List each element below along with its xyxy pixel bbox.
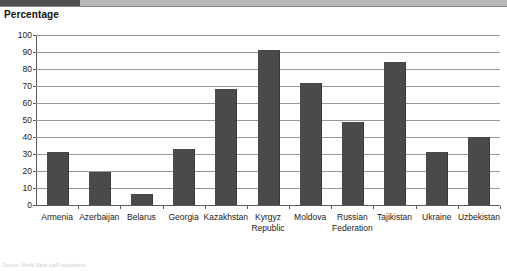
x-tick-mark xyxy=(78,206,79,209)
y-tick-label: 20 xyxy=(2,166,32,176)
page-title: Percentage xyxy=(4,9,59,20)
bar xyxy=(89,172,111,205)
bar xyxy=(426,152,448,205)
y-tick-mark xyxy=(33,35,36,36)
x-tick-mark xyxy=(247,206,248,209)
y-tick-mark xyxy=(33,188,36,189)
x-tick-label: Tajikistan xyxy=(377,212,412,223)
y-tick-mark xyxy=(33,103,36,104)
x-tick-mark xyxy=(458,206,459,209)
y-tick-label: 70 xyxy=(2,81,32,91)
bar xyxy=(131,194,153,205)
bar xyxy=(173,149,195,205)
y-tick-label: 30 xyxy=(2,149,32,159)
y-tick-label: 40 xyxy=(2,132,32,142)
bar xyxy=(468,137,490,205)
bar xyxy=(215,89,237,205)
x-tick-mark xyxy=(500,206,501,209)
y-tick-mark xyxy=(33,120,36,121)
x-tick-mark xyxy=(416,206,417,209)
bar xyxy=(47,152,69,205)
y-tick-label: 90 xyxy=(2,47,32,57)
y-tick-mark xyxy=(33,137,36,138)
x-tick-mark xyxy=(331,206,332,209)
x-tick-label: Kazakhstan xyxy=(204,212,248,223)
x-tick-label: Azerbaijan xyxy=(79,212,119,223)
x-tick-mark xyxy=(120,206,121,209)
x-axis-line xyxy=(36,205,500,206)
x-tick-label: Belarus xyxy=(127,212,156,223)
gridline xyxy=(36,35,500,36)
x-tick-label: Georgia xyxy=(169,212,199,223)
y-tick-mark xyxy=(33,52,36,53)
y-tick-label: 10 xyxy=(2,183,32,193)
y-tick-mark xyxy=(33,86,36,87)
x-tick-label: Uzbekistan xyxy=(458,212,500,223)
y-tick-label: 60 xyxy=(2,98,32,108)
y-tick-label: 80 xyxy=(2,64,32,74)
x-tick-label: Ukraine xyxy=(422,212,451,223)
x-tick-mark xyxy=(373,206,374,209)
y-tick-mark xyxy=(33,69,36,70)
x-tick-mark xyxy=(289,206,290,209)
y-tick-label: 100 xyxy=(2,30,32,40)
y-tick-mark xyxy=(33,171,36,172)
x-tick-label: Kyrgyz Republic xyxy=(251,212,284,234)
x-tick-label: Russian Federation xyxy=(332,212,373,234)
chart-page: Percentage 0102030405060708090100 Armeni… xyxy=(0,0,507,271)
bar xyxy=(300,83,322,205)
x-tick-mark xyxy=(163,206,164,209)
header-rule xyxy=(0,6,507,7)
source-note: Source: World Bank staff calculations. xyxy=(3,262,87,268)
x-tick-mark xyxy=(205,206,206,209)
bar xyxy=(342,122,364,205)
x-tick-label: Armenia xyxy=(41,212,73,223)
plot-area xyxy=(36,35,500,205)
y-tick-label: 0 xyxy=(2,200,32,210)
bar xyxy=(384,62,406,205)
y-tick-label: 50 xyxy=(2,115,32,125)
y-tick-mark xyxy=(33,154,36,155)
y-axis-tick-labels: 0102030405060708090100 xyxy=(0,35,32,205)
y-tick-mark xyxy=(33,205,36,206)
bar xyxy=(258,50,280,205)
x-tick-label: Moldova xyxy=(294,212,326,223)
